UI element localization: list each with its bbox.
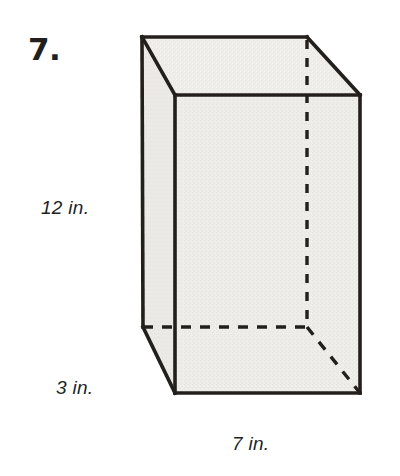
left-face xyxy=(142,37,175,393)
edge-back-left-vertical xyxy=(142,37,143,327)
problem-number: 7. xyxy=(28,34,60,65)
front-face xyxy=(175,95,360,393)
rectangular-prism-figure xyxy=(0,0,400,476)
top-face xyxy=(142,37,360,95)
dimension-label-width: 7 in. xyxy=(232,434,269,453)
worksheet-page: 7. 12 in. 3 in. 7 in. xyxy=(0,0,400,476)
dimension-label-depth: 3 in. xyxy=(56,378,93,397)
dimension-label-height: 12 in. xyxy=(41,198,89,217)
